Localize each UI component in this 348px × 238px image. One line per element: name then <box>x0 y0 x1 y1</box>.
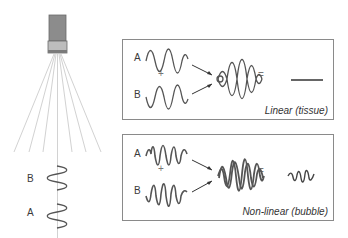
residual-signal-result-icon <box>288 171 314 183</box>
destructive-interference-icon <box>217 60 262 99</box>
linear-wave-b-icon <box>146 85 188 109</box>
nonlinear-panel: A B + = Non-linear (bubble) <box>122 134 334 221</box>
wave-b-label: B <box>27 173 34 184</box>
nonlinear-interference-icon <box>218 159 264 191</box>
transducer-icon <box>48 15 67 53</box>
nonlinear-wave-a-icon <box>146 146 187 166</box>
diagram-stage: B A A B + = Linear (tissue) A B + = <box>0 0 348 238</box>
nonlinear-wave-b-icon <box>146 184 187 207</box>
linear-wave-a-icon <box>146 49 188 73</box>
nonlinear-caption: Non-linear (bubble) <box>242 206 328 217</box>
linear-panel: A B + = Linear (tissue) <box>122 39 334 120</box>
linear-caption: Linear (tissue) <box>265 105 328 116</box>
wave-a-label: A <box>27 207 34 218</box>
